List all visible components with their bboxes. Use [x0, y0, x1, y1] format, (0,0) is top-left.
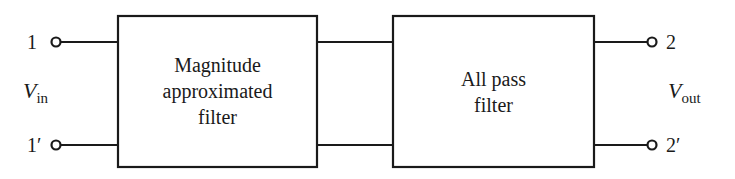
- allpass-filter-label: All pass filter: [393, 66, 594, 118]
- block-label-line: filter: [393, 92, 594, 118]
- terminal-1-icon: [52, 38, 61, 47]
- terminal-2-icon: [648, 38, 657, 47]
- block-label-line: All pass: [393, 66, 594, 92]
- magnitude-filter-label: Magnitude approximated filter: [118, 52, 317, 130]
- block-diagram: [0, 0, 735, 179]
- block-label-line: Magnitude: [118, 52, 317, 78]
- vin-label: Vin: [23, 80, 48, 106]
- terminal-1prime-label: 1′: [27, 135, 41, 155]
- terminal-2prime-label: 2′: [666, 135, 680, 155]
- terminal-2-label: 2: [666, 32, 676, 52]
- block-label-line: filter: [118, 104, 317, 130]
- block-label-line: approximated: [118, 78, 317, 104]
- terminal-1prime-icon: [52, 141, 61, 150]
- terminal-1-label: 1: [27, 32, 37, 52]
- terminal-2prime-icon: [648, 141, 657, 150]
- vout-label: Vout: [668, 80, 701, 106]
